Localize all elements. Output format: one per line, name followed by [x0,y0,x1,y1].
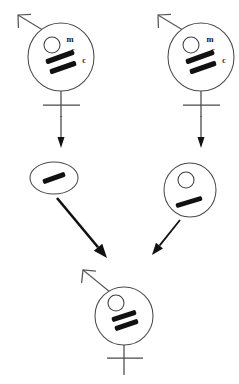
division-arrow-left-head [58,137,65,148]
open-arrow-zygote-shaft [83,270,110,292]
daughter-cell-right-nucleus [178,172,194,188]
division-arrow-right-head [198,137,205,148]
fusion-arrow-right-shaft [160,220,181,246]
daughter-cell-left [30,162,78,194]
diagram-canvas: mccmcc [0,0,239,384]
division-arrow-right [198,116,205,148]
fusion-arrow-left [57,198,107,258]
zygote-cell-nucleus [108,295,124,311]
fusion-arrow-right [152,220,180,255]
open-arrow-zygote [82,270,110,292]
daughter-cell-right [164,163,216,217]
zygote-cell [95,287,153,375]
daughter-cell-right-membrane [164,163,216,217]
parent-cell-left: mcc [28,23,94,117]
parent-cell-left-nucleus [44,37,60,53]
division-arrow-left [58,116,65,148]
fusion-arrow-left-shaft [57,198,98,247]
parent-cell-left-label-m-0: m [66,34,73,44]
parent-cell-right-nucleus [183,37,199,53]
parent-cell-right-label-m-0: m [206,34,213,44]
cell-division-diagram: mccmcc [0,0,239,384]
parent-cell-right: mcc [168,23,234,117]
open-arrow-zygote-head [82,270,96,283]
